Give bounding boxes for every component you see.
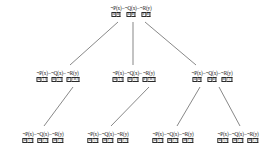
literal-group: ¬P(x)b{} [87, 132, 98, 143]
substitution-box: d{} [247, 138, 258, 144]
literal-group: ¬Q(x)b{} [102, 132, 114, 143]
literal-group: ¬P(x)b{} [36, 71, 47, 82]
substitution-cell: {} [118, 77, 124, 83]
substitution-box: d{} [117, 138, 128, 144]
tree-edge-root-to-n1 [70, 22, 118, 65]
substitution-cell: {} [57, 138, 63, 144]
substitution-box: ab [111, 12, 120, 18]
substitution-cell: d [146, 12, 150, 18]
substitution-box: b{} [127, 77, 138, 83]
tree-node-n3[interactable]: ¬P(x)ab–¬Q(x)ab–¬R(y)d{} [191, 71, 232, 82]
substitution-box: b{} [232, 138, 243, 144]
substitution-box: c{d} [142, 77, 155, 83]
substitution-box: d{} [182, 138, 193, 144]
substitution-box: b{} [167, 138, 178, 144]
substitution-cell: {} [92, 138, 98, 144]
substitution-box: d{} [221, 77, 232, 83]
substitution-box: b{} [51, 77, 62, 83]
substitution-cell: {} [107, 138, 113, 144]
substitution-box: ab [192, 77, 201, 83]
tree-node-l2[interactable]: ¬P(x)b{}–¬Q(x)b{}–¬R(y)d{} [87, 132, 128, 143]
literal-group: ¬P(x)b{} [217, 132, 228, 143]
literal-group: ¬P(x)ab [191, 71, 202, 82]
substitution-box: ab [207, 77, 216, 83]
tree-edge-n3-to-l4 [219, 87, 240, 126]
literal-group: ¬R(y)cd [140, 6, 152, 17]
literal-group: ¬Q(x)ab [206, 71, 218, 82]
tree-node-n1[interactable]: ¬P(x)b{}–¬Q(x)b{}–¬R(y)c{d} [36, 71, 79, 82]
substitution-cell: b [197, 77, 201, 83]
tree-node-n2[interactable]: ¬P(x)b{}–¬Q(x)b{}–¬R(y)c{d} [112, 71, 155, 82]
substitution-box: b{} [36, 77, 47, 83]
substitution-cell: {} [122, 138, 128, 144]
substitution-box: cd [141, 12, 150, 18]
substitution-box: b{} [152, 138, 163, 144]
literal-group: ¬R(y)d{} [247, 132, 259, 143]
tree-edge-n1-to-l1 [44, 87, 73, 126]
tree-node-l3[interactable]: ¬P(x)b{}–¬Q(x)b{}–¬R(y)d{} [152, 132, 193, 143]
substitution-cell: b [212, 77, 216, 83]
substitution-box: b{} [102, 138, 113, 144]
tree-edge-n3-to-l3 [177, 87, 200, 126]
substitution-box: c{d} [66, 77, 79, 83]
literal-group: ¬R(y)d{} [52, 132, 64, 143]
substitution-box: b{} [217, 138, 228, 144]
substitution-cell: {} [172, 138, 178, 144]
tree-node-l4[interactable]: ¬P(x)b{}–¬Q(x)b{}–¬R(y)d{} [217, 132, 258, 143]
literal-group: ¬P(x)b{} [22, 132, 33, 143]
literal-group: ¬P(x)ab [110, 6, 121, 17]
tree-node-l1[interactable]: ¬P(x)b{}–¬Q(x)b{}–¬R(y)d{} [22, 132, 63, 143]
literal-group: ¬P(x)b{} [152, 132, 163, 143]
substitution-cell: {} [222, 138, 228, 144]
substitution-cell: b [116, 12, 120, 18]
substitution-cell: {} [27, 138, 33, 144]
literal-group: ¬R(y)d{} [221, 71, 233, 82]
substitution-cell: {} [133, 77, 139, 83]
substitution-box: b{} [37, 138, 48, 144]
literal-group: ¬Q(x)b{} [232, 132, 244, 143]
substitution-cell: {} [42, 138, 48, 144]
literal-group: ¬R(y)d{} [117, 132, 129, 143]
literal-group: ¬Q(x)ab [125, 6, 137, 17]
substitution-box: b{} [87, 138, 98, 144]
substitution-cell: {d} [71, 77, 79, 83]
substitution-cell: {} [42, 77, 48, 83]
proof-tree-diagram: ¬P(x)ab–¬Q(x)ab–¬R(y)cd¬P(x)b{}–¬Q(x)b{}… [0, 0, 272, 158]
substitution-cell: {} [187, 138, 193, 144]
tree-edge-n2-to-l2 [111, 87, 149, 126]
substitution-box: b{} [112, 77, 123, 83]
literal-group: ¬Q(x)b{} [167, 132, 179, 143]
substitution-box: b{} [22, 138, 33, 144]
substitution-cell: {} [157, 138, 163, 144]
literal-group: ¬Q(x)b{} [51, 71, 63, 82]
literal-group: ¬R(y)d{} [182, 132, 194, 143]
substitution-cell: {} [226, 77, 232, 83]
tree-edge-root-to-n3 [145, 22, 196, 65]
literal-group: ¬P(x)b{} [112, 71, 123, 82]
literal-group: ¬Q(x)b{} [127, 71, 139, 82]
literal-group: ¬R(y)c{d} [142, 71, 155, 82]
substitution-cell: b [131, 12, 135, 18]
literal-group: ¬Q(x)b{} [37, 132, 49, 143]
substitution-box: ab [126, 12, 135, 18]
substitution-cell: {} [252, 138, 258, 144]
substitution-cell: {} [237, 138, 243, 144]
substitution-cell: {d} [147, 77, 155, 83]
literal-group: ¬R(y)c{d} [66, 71, 79, 82]
substitution-box: d{} [52, 138, 63, 144]
substitution-cell: {} [57, 77, 63, 83]
tree-node-root[interactable]: ¬P(x)ab–¬Q(x)ab–¬R(y)cd [110, 6, 151, 17]
